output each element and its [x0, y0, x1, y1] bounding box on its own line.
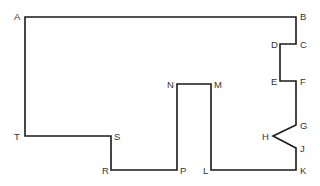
- vertex-label-f: F: [300, 76, 306, 87]
- vertex-label-e: E: [271, 76, 277, 87]
- vertex-label-t: T: [14, 131, 20, 142]
- polygon-diagram: A B C D E F G H J K L M N P R S T: [0, 0, 320, 186]
- vertex-label-n: N: [167, 79, 174, 90]
- vertex-label-s: S: [114, 131, 120, 142]
- vertex-label-c: C: [300, 39, 307, 50]
- vertex-label-k: K: [300, 165, 307, 176]
- vertex-label-l: L: [203, 165, 208, 176]
- vertex-label-j: J: [300, 143, 305, 154]
- vertex-label-h: H: [262, 131, 269, 142]
- vertex-label-r: R: [102, 165, 109, 176]
- vertex-label-a: A: [14, 11, 21, 22]
- vertex-label-g: G: [300, 120, 307, 131]
- vertex-labels: A B C D E F G H J K L M N P R S T: [14, 11, 307, 176]
- vertex-label-p: P: [180, 165, 186, 176]
- vertex-label-b: B: [300, 11, 306, 22]
- vertex-label-m: M: [214, 79, 222, 90]
- vertex-label-d: D: [271, 39, 278, 50]
- polygon-outline: [25, 17, 296, 170]
